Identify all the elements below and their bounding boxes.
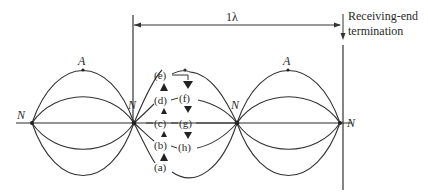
phase-label-a: (a) xyxy=(154,161,167,174)
node-label: N xyxy=(16,108,26,122)
down-arrow-icon xyxy=(183,81,193,89)
antinode-label: A xyxy=(77,54,86,68)
down-arrow-icon xyxy=(184,106,192,113)
up-arrow-icon xyxy=(161,108,167,114)
phase-label-b: (b) xyxy=(154,139,167,152)
node-label: N xyxy=(127,98,137,112)
phase-label-h: (h) xyxy=(178,141,191,154)
antinode-dot xyxy=(286,68,289,71)
down-arrow-icon xyxy=(184,132,192,139)
up-arrow-icon xyxy=(161,131,167,137)
phase-label-c: (c) xyxy=(154,117,167,130)
up-arrow-icon xyxy=(160,153,168,161)
node-label: N xyxy=(346,116,356,130)
node-dot xyxy=(132,121,137,126)
phase-label-f: (f) xyxy=(179,92,190,105)
node-dot xyxy=(30,121,34,125)
wavelength-dimension: 1λ xyxy=(134,10,341,28)
node-label: N xyxy=(230,98,240,112)
node-dot xyxy=(338,121,342,125)
phase-e-arc xyxy=(172,71,190,74)
antinode-label: A xyxy=(282,54,291,68)
phase-label-d: (d) xyxy=(154,94,167,107)
standing-wave-diagram: 1λ Receiving-end termination xyxy=(0,0,428,196)
phase-label-e: (e) xyxy=(154,69,167,82)
antinode-dot xyxy=(81,68,84,71)
up-arrow-icon xyxy=(160,83,168,91)
termination-label-line2: termination xyxy=(348,24,403,38)
termination-label-line1: Receiving-end xyxy=(348,9,418,23)
phase-label-g: (g) xyxy=(179,117,192,130)
wavelength-label: 1λ xyxy=(226,10,238,24)
termination-arrow xyxy=(341,14,346,40)
